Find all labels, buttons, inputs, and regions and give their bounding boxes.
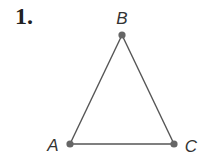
side-bc — [122, 35, 174, 144]
triangle-sides — [70, 35, 174, 144]
triangle-figure: B A C — [0, 0, 210, 156]
vertex-points — [66, 31, 177, 147]
vertex-label-c: C — [185, 137, 198, 156]
vertex-point-a — [66, 140, 73, 147]
vertex-label-b: B — [116, 9, 127, 28]
vertex-labels: B A C — [46, 9, 198, 156]
vertex-point-b — [118, 31, 125, 38]
vertex-label-a: A — [46, 136, 58, 155]
side-ab — [70, 35, 122, 144]
vertex-point-c — [170, 140, 177, 147]
